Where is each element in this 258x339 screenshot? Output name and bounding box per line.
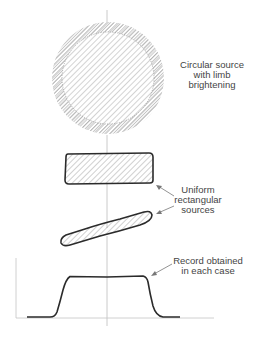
label-circular-source: Circular source with limb brightening <box>174 60 250 90</box>
radio-source-scan-diagram <box>0 0 258 339</box>
label-record-line-2: in each case <box>170 266 246 276</box>
record-curve <box>27 276 180 317</box>
circular-source <box>52 22 164 134</box>
label-circular-line-3: brightening <box>174 80 250 90</box>
rectangular-source-oblique <box>61 211 152 245</box>
label-rectangular-sources: Uniform rectangular sources <box>170 185 226 215</box>
arrow-to-record <box>151 264 172 276</box>
label-record: Record obtained in each case <box>170 256 246 276</box>
label-rect-line-3: sources <box>170 205 226 215</box>
rectangular-source-horizontal <box>65 153 153 184</box>
